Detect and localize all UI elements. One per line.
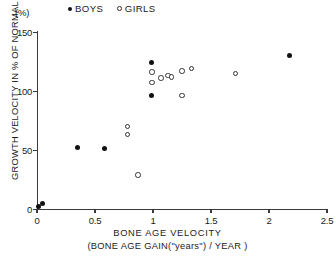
x-axis-tick <box>36 209 37 213</box>
legend-item-girls: GIRLS <box>117 3 155 14</box>
data-point-girls <box>149 69 155 75</box>
y-axis-line <box>37 31 38 210</box>
data-point-girls <box>179 68 185 74</box>
legend-item-boys: BOYS <box>68 3 103 14</box>
y-axis-tick-label: 0 <box>0 204 32 214</box>
y-axis-tick-label: 150 <box>0 27 32 37</box>
data-point-girls <box>189 66 195 72</box>
data-point-girls <box>179 93 185 99</box>
open-circle-icon <box>117 6 122 11</box>
data-point-girls <box>169 74 175 80</box>
x-axis-line <box>37 209 328 210</box>
data-point-girls <box>125 132 131 138</box>
x-axis-tick-label: 2.5 <box>321 215 333 226</box>
data-point-boys <box>75 145 80 150</box>
data-point-girls <box>125 124 131 130</box>
legend-label-girls: GIRLS <box>125 3 156 14</box>
x-axis-tick <box>210 209 211 213</box>
data-point-girls <box>135 172 141 178</box>
data-point-girls <box>233 71 239 77</box>
legend-label-boys: BOYS <box>75 3 103 14</box>
y-axis-tick-label: 100 <box>0 86 32 96</box>
x-axis-tick-label: 0.5 <box>89 215 101 226</box>
x-axis-tick-label: 2 <box>267 215 272 226</box>
x-axis-tick <box>94 209 95 213</box>
y-axis-tick <box>33 150 37 151</box>
x-axis-subtitle: (BONE AGE GAIN("years") / YEAR ) <box>0 241 335 251</box>
x-axis-tick-label: 0 <box>35 215 40 226</box>
filled-circle-icon <box>68 7 72 11</box>
data-point-girls <box>158 75 164 81</box>
data-point-boys <box>287 53 292 58</box>
x-axis-tick <box>268 209 269 213</box>
data-point-boys <box>149 60 154 65</box>
y-axis-tick <box>33 91 37 92</box>
data-point-boys <box>40 201 45 206</box>
data-point-boys <box>149 93 154 98</box>
data-point-boys <box>102 146 107 151</box>
y-axis-tick-label: 50 <box>0 145 32 155</box>
x-axis-tick-label: 1 <box>151 215 156 226</box>
x-axis-tick <box>152 209 153 213</box>
scatter-plot-figure: (%) BOYS GIRLS GROWTH VELOCITY IN % OF N… <box>0 0 335 258</box>
x-axis-title: BONE AGE VELOCITY <box>0 228 335 238</box>
x-axis-tick <box>326 209 327 213</box>
x-axis-tick-label: 1.5 <box>205 215 217 226</box>
chart-legend: BOYS GIRLS <box>68 3 156 14</box>
data-point-girls <box>149 80 155 86</box>
y-axis-title: GROWTH VELOCITY IN % OF NORMAL <box>10 30 20 180</box>
y-axis-tick <box>33 32 37 33</box>
